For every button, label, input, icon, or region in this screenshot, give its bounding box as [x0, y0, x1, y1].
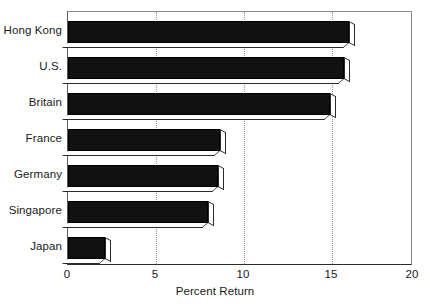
category-label-hong-kong: Hong Kong [0, 24, 62, 36]
xtick-10: 10 [237, 268, 250, 280]
category-label-us: U.S. [0, 60, 62, 72]
x-axis-title: Percent Return [0, 285, 430, 297]
xtick-20: 20 [406, 268, 419, 280]
category-label-singapore: Singapore [0, 204, 62, 216]
category-label-france: France [0, 132, 62, 144]
category-label-britain: Britain [0, 96, 62, 108]
category-labels: Hong Kong U.S. Britain France Germany Si… [0, 0, 430, 304]
xtick-15: 15 [325, 268, 338, 280]
xtick-0: 0 [64, 268, 70, 280]
category-label-japan: Japan [0, 240, 62, 252]
category-label-germany: Germany [0, 168, 62, 180]
xtick-5: 5 [152, 268, 158, 280]
bar-chart: Hong Kong U.S. Britain France Germany Si… [0, 0, 430, 304]
